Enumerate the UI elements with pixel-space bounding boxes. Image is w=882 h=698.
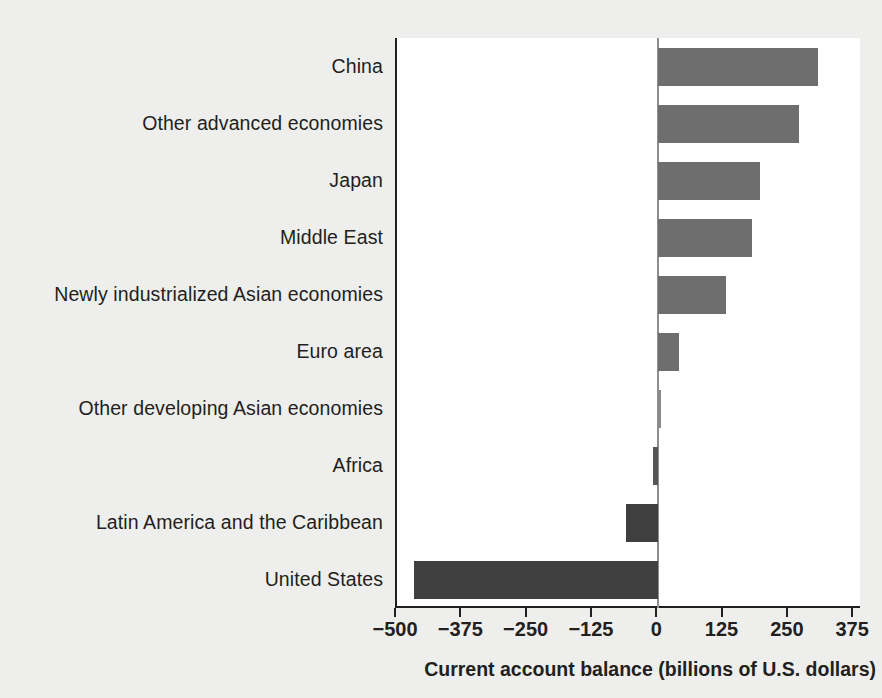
x-axis-tick [394,608,396,617]
bar [626,504,658,542]
x-axis: −500−375−250−1250125250375 [395,608,860,648]
x-axis-tick-label: −250 [503,619,548,639]
x-axis-tick-label: 375 [835,619,868,639]
bar [653,447,658,485]
bar [658,219,752,257]
x-axis-tick [525,608,527,617]
x-axis-tick-label: −375 [438,619,483,639]
x-axis-tick-label: 0 [651,619,662,639]
bar [658,105,799,143]
category-label: Other developing Asian economies [0,399,383,419]
x-axis-tick-label: 250 [770,619,803,639]
bar [414,561,658,599]
x-axis-tick-label: −500 [372,619,417,639]
bar [658,162,760,200]
category-label: Latin America and the Caribbean [0,513,383,533]
bar [658,48,817,86]
category-axis-labels: ChinaOther advanced economiesJapanMiddle… [0,38,383,608]
x-axis-tick [590,608,592,617]
x-axis-tick [655,608,657,617]
category-label: Middle East [0,228,383,248]
category-label: United States [0,570,383,590]
category-label: Newly industrialized Asian economies [0,285,383,305]
x-axis-tick [851,608,853,617]
category-label: Japan [0,171,383,191]
x-axis-tick [721,608,723,617]
x-axis-tick [459,608,461,617]
category-label: Other advanced economies [0,114,383,134]
category-label: China [0,57,383,77]
x-axis-tick [786,608,788,617]
x-axis-tick-label: −125 [568,619,613,639]
chart-figure: ChinaOther advanced economiesJapanMiddle… [0,0,882,698]
bar [658,276,726,314]
plot-area [395,38,860,608]
category-label: Africa [0,456,383,476]
x-axis-tick-label: 125 [705,619,738,639]
category-label: Euro area [0,342,383,362]
x-axis-title: Current account balance (billions of U.S… [0,660,876,680]
bar [658,390,661,428]
bar [658,333,679,371]
